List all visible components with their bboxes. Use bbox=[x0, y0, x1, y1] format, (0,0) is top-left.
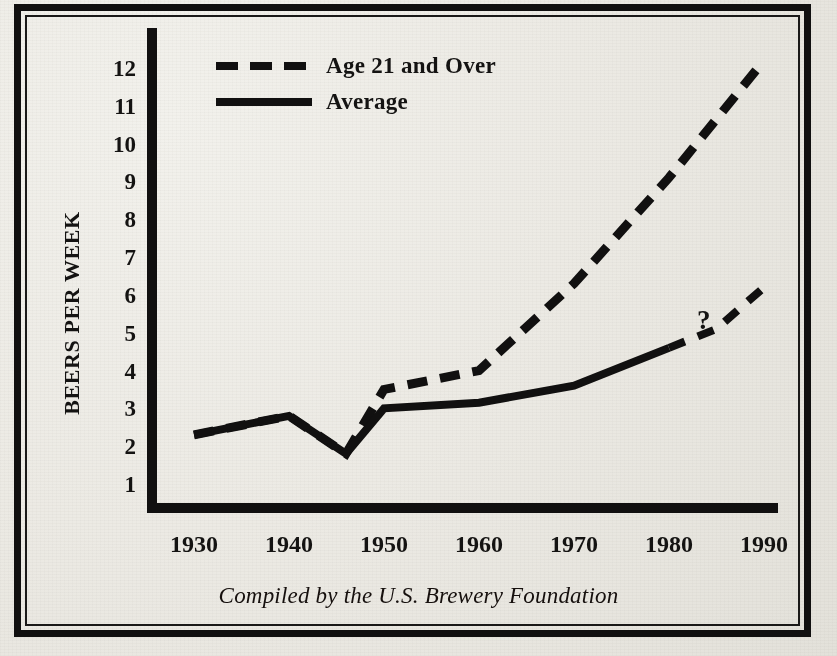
chart-caption: Compiled by the U.S. Brewery Foundation bbox=[0, 583, 837, 609]
legend-swatch-dashed-icon bbox=[216, 62, 312, 70]
y-tick-4: 4 bbox=[92, 360, 136, 383]
x-tick-1990: 1990 bbox=[721, 532, 807, 556]
y-tick-6: 6 bbox=[92, 284, 136, 307]
y-tick-12: 12 bbox=[92, 57, 136, 80]
y-tick-1: 1 bbox=[92, 473, 136, 496]
x-tick-1970: 1970 bbox=[531, 532, 617, 556]
y-tick-7: 7 bbox=[92, 246, 136, 269]
legend-swatch-solid-icon bbox=[216, 98, 312, 106]
y-tick-11: 11 bbox=[92, 95, 136, 118]
x-tick-1950: 1950 bbox=[341, 532, 427, 556]
y-tick-8: 8 bbox=[92, 208, 136, 231]
chart-legend: Age 21 and Over Average bbox=[216, 48, 496, 120]
x-tick-1940: 1940 bbox=[246, 532, 332, 556]
y-tick-10: 10 bbox=[92, 133, 136, 156]
y-tick-5: 5 bbox=[92, 322, 136, 345]
x-tick-1980: 1980 bbox=[626, 532, 712, 556]
y-tick-9: 9 bbox=[92, 170, 136, 193]
y-tick-3: 3 bbox=[92, 397, 136, 420]
legend-label-age-21-and-over: Age 21 and Over bbox=[326, 53, 496, 79]
x-tick-1960: 1960 bbox=[436, 532, 522, 556]
uncertainty-annotation: ? bbox=[697, 305, 711, 336]
legend-item-age-21-and-over: Age 21 and Over bbox=[216, 48, 496, 84]
x-tick-1930: 1930 bbox=[151, 532, 237, 556]
y-tick-2: 2 bbox=[92, 435, 136, 458]
y-axis-title: BEERS PER WEEK bbox=[59, 183, 85, 443]
legend-label-average: Average bbox=[326, 89, 408, 115]
legend-item-average: Average bbox=[216, 84, 496, 120]
